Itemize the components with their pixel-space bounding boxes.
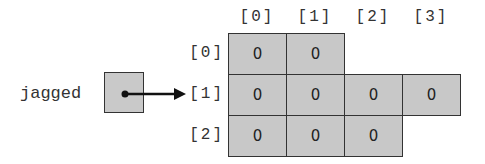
array-cell: 0 (344, 115, 403, 157)
reference-variable-box (104, 72, 144, 113)
array-cell: 0 (402, 74, 461, 116)
column-header-3: [3] (402, 8, 460, 26)
array-cell: 0 (228, 33, 287, 75)
array-cell: 0 (286, 33, 345, 75)
array-cell: 0 (228, 115, 287, 157)
row-label-2: [2] (174, 126, 224, 144)
variable-name-label: jagged (20, 84, 81, 104)
array-cell: 0 (286, 74, 345, 116)
row-label-0: [0] (174, 44, 224, 62)
column-header-2: [2] (344, 8, 402, 26)
column-header-1: [1] (286, 8, 344, 26)
column-header-0: [0] (228, 8, 286, 26)
array-cell: 0 (286, 115, 345, 157)
array-cell: 0 (228, 74, 287, 116)
row-label-1: [1] (174, 85, 224, 103)
array-cell: 0 (344, 74, 403, 116)
